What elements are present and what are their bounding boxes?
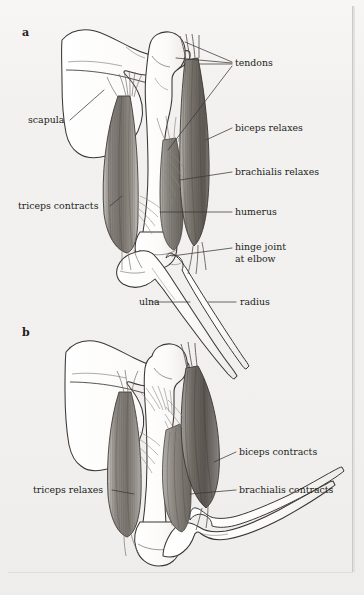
label-biceps-contracts: biceps contracts [239, 446, 317, 458]
panel-letter-a: a [22, 26, 29, 39]
leader-hinge-joint [172, 248, 232, 256]
label-triceps-contracts: triceps contracts [18, 200, 98, 212]
label-tendons: tendons [235, 57, 273, 69]
biceps-muscle-a [176, 34, 214, 274]
label-hinge-joint-line2: at elbow [235, 253, 276, 265]
label-brachialis-contracts: brachialis contracts [239, 484, 333, 496]
label-brachialis-relaxes: brachialis relaxes [235, 166, 319, 178]
arm-anatomy-illustration [0, 0, 364, 595]
label-scapula: scapula [28, 114, 64, 126]
label-biceps-relaxes: biceps relaxes [235, 122, 303, 134]
label-ulna: ulna [139, 296, 160, 308]
anatomy-figure: a b tendons biceps relaxes brachialis re… [0, 0, 364, 595]
label-radius: radius [240, 296, 270, 308]
leader-biceps-relaxes [206, 128, 232, 140]
label-hinge-joint-line1: hinge joint [235, 241, 286, 253]
panel-letter-b: b [22, 326, 30, 339]
label-triceps-relaxes: triceps relaxes [33, 484, 103, 496]
label-humerus: humerus [235, 206, 277, 218]
biceps-distal-tendon-a [188, 242, 206, 274]
